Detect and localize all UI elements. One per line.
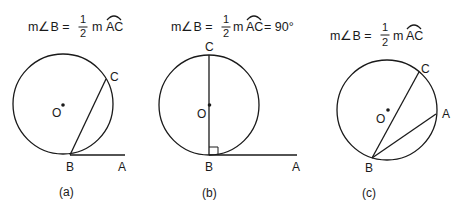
equation-rhs: m [92,20,102,34]
center-dot [208,103,212,107]
label-b: B [205,160,213,174]
label-b: B [365,161,373,175]
fraction-denominator: 2 [80,27,86,39]
equation-c: m∠B = 1 2 m AC [330,21,423,48]
arc-label: AC [106,20,123,34]
fraction-numerator: 1 [382,21,388,33]
label-b: B [66,160,74,174]
fraction-numerator: 1 [80,13,86,25]
label-a: A [442,107,450,121]
figure-b: m∠B = 1 2 m AC = 90° O C B A (b) [159,13,300,200]
inscribed-angle-diagrams: m∠B = 1 2 m AC O C B A (a) m∠B = 1 2 m A… [0,0,461,208]
caption-a: (a) [59,185,74,199]
arc-label: AC [406,29,423,43]
equation-lhs: m∠B = [171,20,213,34]
fraction-denominator: 2 [223,27,229,39]
equation-rhs: m [233,20,243,34]
label-a: A [118,160,126,174]
figure-a: m∠B = 1 2 m AC O C B A (a) [13,13,126,199]
equation-lhs: m∠B = [28,20,70,34]
caption-c: (c) [362,186,376,200]
chord-bc [70,79,106,155]
equation-a: m∠B = 1 2 m AC [28,13,123,39]
label-o: O [376,112,385,126]
label-c: C [421,62,430,76]
label-c: C [110,70,119,84]
arc-label: AC [246,20,263,34]
fraction-denominator: 2 [382,36,388,48]
fraction-numerator: 1 [223,13,229,25]
label-a: A [292,160,300,174]
equation-b: m∠B = 1 2 m AC = 90° [171,13,294,39]
label-o: O [197,107,206,121]
center-dot [61,103,65,107]
equation-rhs: m [393,29,403,43]
equation-lhs: m∠B = [330,29,372,43]
label-c: C [205,40,214,54]
center-dot [386,108,390,112]
equation-tail: = 90° [264,20,294,34]
caption-b: (b) [202,186,217,200]
label-o: O [52,106,61,120]
figure-c: m∠B = 1 2 m AC O C A B (c) [330,21,450,200]
